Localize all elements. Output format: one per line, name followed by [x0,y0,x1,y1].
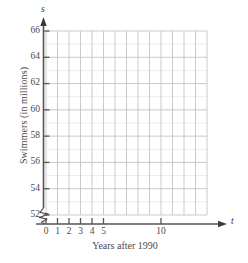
y-tick-label-66: 66 [18,25,40,35]
x-axis-ticks [46,218,161,224]
x-axis-title: Years after 1990 [40,240,210,251]
x-axis-arrow-icon [218,221,227,227]
y-axis-title: Swimmers (in millions) [18,41,29,191]
chart-figure: s t 66 64 62 60 58 56 54 52 0 1 2 3 4 5 … [0,0,248,263]
y-tick-label-52: 52 [18,209,40,219]
y-axis-arrow-icon [40,17,46,26]
y-axis-symbol: s [41,4,45,14]
x-tick-label-10: 10 [153,226,169,236]
x-axis-symbol: t [231,216,234,226]
x-tick-label-5: 5 [96,226,112,236]
